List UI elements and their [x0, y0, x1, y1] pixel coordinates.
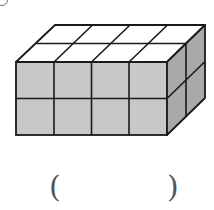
answer-blank[interactable]	[70, 178, 165, 204]
answer-open-paren: (	[49, 172, 61, 202]
front-face	[16, 62, 167, 135]
answer-close-paren: )	[167, 172, 179, 202]
